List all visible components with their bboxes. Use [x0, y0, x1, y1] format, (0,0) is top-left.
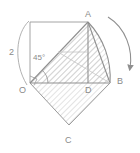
vertex-label-o: O	[19, 86, 26, 95]
angle-measure-label: 45°	[33, 54, 45, 62]
vertex-label-b: B	[117, 77, 123, 86]
measure-brace	[18, 21, 29, 85]
vertex-label-d: D	[85, 86, 92, 95]
rotation-arrow[interactable]	[108, 17, 131, 68]
geometry-figure: A B O C D 2 45°	[0, 0, 140, 153]
vertex-label-a: A	[85, 10, 91, 19]
radius-length-label: 2	[9, 48, 14, 57]
vertex-label-c: C	[65, 136, 72, 145]
